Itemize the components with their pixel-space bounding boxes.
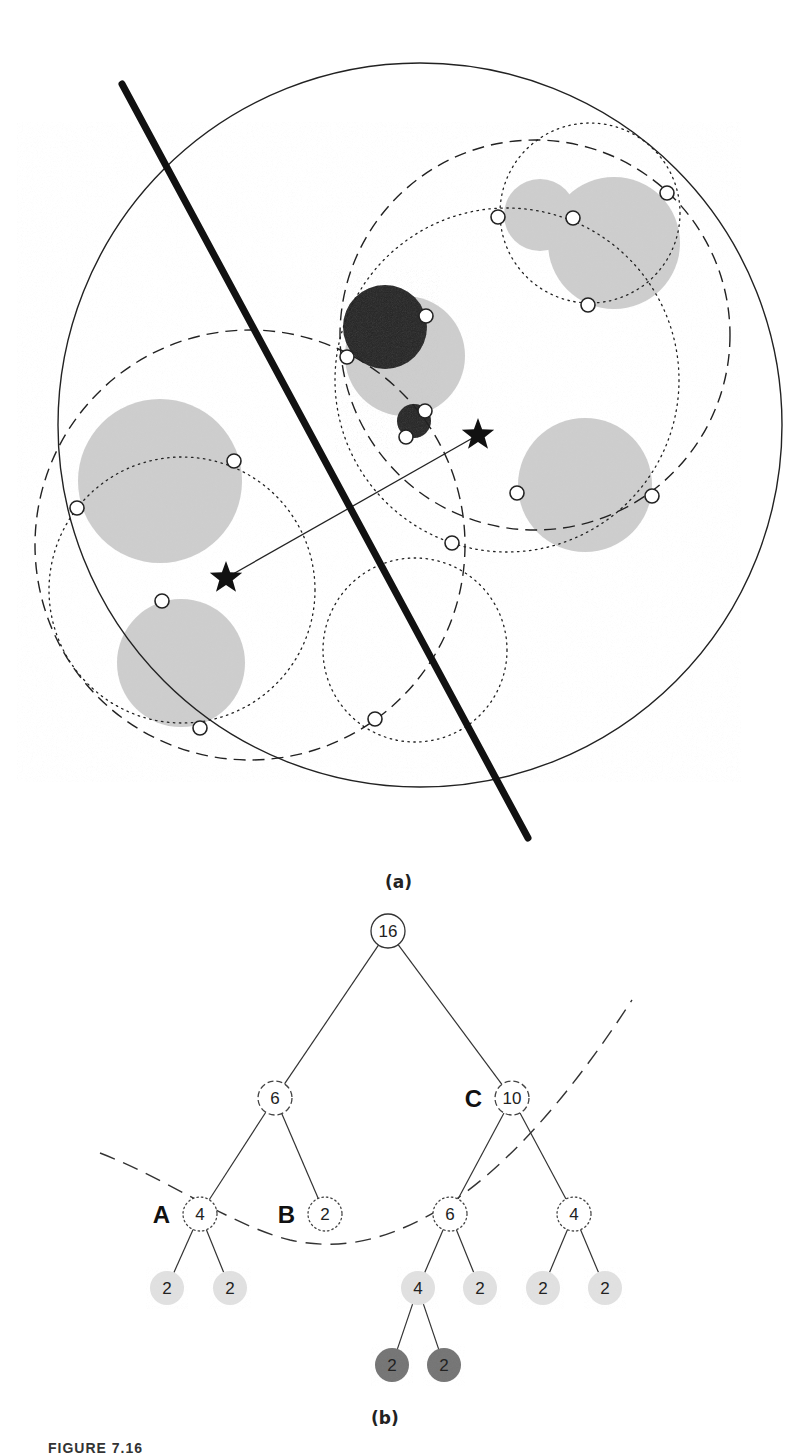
gray-cluster-blob: [518, 418, 652, 552]
gray-cluster-blob: [78, 399, 242, 563]
tree-edge: [209, 1112, 266, 1199]
node-value: 16: [379, 922, 398, 941]
tree-edge: [397, 1304, 412, 1349]
tree-node-A: 4A: [153, 1197, 217, 1231]
node-letter-label: A: [153, 1201, 170, 1228]
node-letter-label: C: [465, 1085, 482, 1112]
cut-boundary-curve: [100, 1000, 632, 1244]
node-value: 2: [225, 1279, 234, 1298]
data-point-marker: [193, 721, 207, 735]
tree-node-l2: 2: [213, 1271, 247, 1305]
tree-node-n6: 6: [258, 1081, 292, 1115]
data-point-marker: [491, 210, 505, 224]
tree-node-n6b: 6: [433, 1197, 467, 1231]
tree-node-l5: 2: [526, 1271, 560, 1305]
tree-node-n4b: 4: [557, 1197, 591, 1231]
data-point-marker: [70, 501, 84, 515]
data-point-marker: [660, 186, 674, 200]
tree-node-B: 2B: [278, 1197, 342, 1231]
tree-node-l3: 4: [401, 1271, 435, 1305]
data-point-marker: [227, 454, 241, 468]
data-point-marker: [340, 350, 354, 364]
node-value: 2: [538, 1279, 547, 1298]
panel-b-tree-diagram: 16610C4A2B6422422222 (b): [100, 914, 632, 1428]
tree-edge: [206, 1230, 223, 1272]
node-value: 2: [439, 1356, 448, 1375]
tree-edge: [425, 1230, 444, 1273]
tree-node-l4: 2: [463, 1271, 497, 1305]
data-point-marker: [418, 404, 432, 418]
data-point-marker: [399, 430, 413, 444]
node-letter-label: B: [278, 1201, 295, 1228]
dotted-ball-circle: [323, 558, 507, 742]
tree-node-root: 16: [371, 914, 405, 948]
node-value: 2: [162, 1279, 171, 1298]
tree-edge: [458, 1113, 504, 1199]
tree-edge: [456, 1230, 473, 1272]
node-value: 2: [320, 1205, 329, 1224]
tree-edge: [581, 1230, 599, 1273]
node-value: 10: [503, 1089, 522, 1108]
tree-node-n10: 10C: [465, 1081, 529, 1115]
data-point-marker: [419, 309, 433, 323]
data-point-marker: [566, 211, 580, 225]
star-icon: [462, 418, 494, 449]
node-value: 6: [445, 1205, 454, 1224]
data-point-marker: [445, 536, 459, 550]
panel-a-ball-tree-diagram: (a): [35, 63, 782, 892]
tree-edge: [174, 1230, 193, 1273]
node-value: 2: [387, 1356, 396, 1375]
star-icon: [210, 561, 242, 592]
tree-nodes: 16610C4A2B6422422222: [150, 914, 622, 1382]
tree-node-l6: 2: [588, 1271, 622, 1305]
panel-b-label: (b): [371, 1408, 399, 1428]
node-value: 4: [195, 1205, 204, 1224]
tree-edge: [550, 1230, 568, 1273]
data-point-marker: [581, 298, 595, 312]
tree-edge: [423, 1304, 438, 1349]
node-value: 4: [413, 1279, 422, 1298]
tree-edge: [520, 1113, 566, 1199]
tree-node-l1: 2: [150, 1271, 184, 1305]
tree-edge: [285, 945, 379, 1084]
node-value: 6: [270, 1089, 279, 1108]
data-point-marker: [368, 712, 382, 726]
panel-a-label: (a): [385, 872, 412, 892]
data-point-marker: [645, 489, 659, 503]
node-value: 2: [600, 1279, 609, 1298]
node-value: 4: [569, 1205, 578, 1224]
tree-edge: [398, 945, 502, 1085]
node-value: 2: [475, 1279, 484, 1298]
gray-cluster-blob: [117, 599, 245, 727]
figure-caption: FIGURE 7.16: [48, 1440, 143, 1456]
data-point-marker: [155, 594, 169, 608]
data-point-marker: [510, 486, 524, 500]
tree-edge: [282, 1114, 319, 1199]
tree-node-d1: 2: [375, 1348, 409, 1382]
tree-node-d2: 2: [427, 1348, 461, 1382]
